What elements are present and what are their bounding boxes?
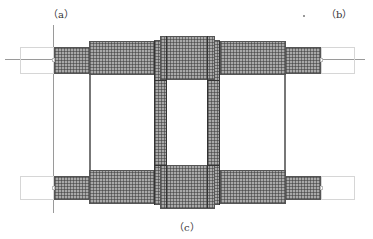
right-pillar-left-edge (207, 36, 208, 208)
top-right-stub-mesh (285, 47, 321, 74)
left-pillar-top-joint (154, 80, 167, 81)
bottom-left-outline-box (20, 176, 54, 200)
left-pillar-bottom-joint (154, 165, 167, 166)
right-pillar-right-edge (219, 41, 220, 205)
bottom-left-stub-mesh (54, 176, 90, 200)
top-right-node (320, 58, 323, 62)
bottom-right-stub-mesh (285, 176, 321, 200)
right-thin-column (284, 74, 286, 171)
left-pillar-right-edge (166, 36, 167, 208)
top-left-outline-box (20, 47, 54, 74)
label-b: （b） (326, 6, 352, 21)
label-a: （a） (48, 6, 74, 21)
bottom-right-outline-box (321, 176, 355, 200)
left-pillar-left-edge (154, 41, 155, 205)
top-right-beam-mesh (220, 41, 286, 75)
bottom-right-beam-mesh (220, 170, 286, 204)
left-thin-column (89, 74, 91, 171)
right-pillar-top-joint (207, 80, 220, 81)
bottom-left-beam-mesh (89, 170, 155, 204)
top-left-node (52, 58, 55, 62)
top-left-stub-mesh (54, 47, 90, 74)
right-pillar-bottom-joint (207, 165, 220, 166)
bottom-right-node (320, 186, 323, 190)
top-right-outline-box (321, 47, 355, 74)
top-left-beam-mesh (89, 41, 155, 75)
stray-dot (303, 15, 305, 17)
bottom-left-node (52, 186, 55, 190)
label-c: （c） (174, 219, 200, 234)
